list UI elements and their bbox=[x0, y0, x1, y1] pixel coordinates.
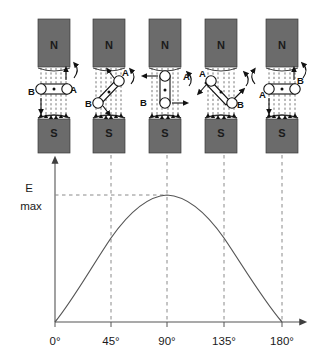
coil-terminal-a-ring bbox=[206, 76, 216, 86]
x-tick-label-45: 45° bbox=[102, 335, 119, 347]
emf-coil-diagram: N S bbox=[0, 0, 330, 362]
y-axis-emax-sublabel: max bbox=[20, 200, 42, 212]
coil-terminal-b-ring bbox=[36, 84, 46, 94]
x-axis-ticks bbox=[55, 322, 282, 327]
emf-curve bbox=[55, 195, 282, 322]
coil-180deg: B A bbox=[259, 75, 304, 100]
coil-0deg: A B bbox=[28, 84, 77, 97]
coil-terminal-b-label: B bbox=[85, 98, 92, 109]
coil-terminal-b-label: B bbox=[28, 86, 35, 97]
coil-terminal-a-ring bbox=[160, 71, 170, 81]
north-pole-label: N bbox=[105, 39, 113, 51]
rotation-arrow bbox=[131, 70, 134, 84]
south-pole-label: S bbox=[217, 127, 224, 139]
coil-axis-dot bbox=[108, 91, 111, 94]
north-pole-face-curve bbox=[205, 68, 237, 71]
x-tick-label-180: 180° bbox=[270, 335, 294, 347]
coil-terminal-a-label: A bbox=[122, 67, 129, 78]
coil-terminal-b-label: B bbox=[140, 97, 147, 108]
coil-terminal-a-label: A bbox=[70, 84, 77, 95]
coil-45deg: A B bbox=[85, 67, 129, 109]
magnet-panel-90deg: N S bbox=[140, 19, 191, 153]
coil-terminal-b-ring bbox=[160, 98, 170, 108]
coil-terminal-b-label: B bbox=[297, 75, 304, 86]
coil-axis-dot bbox=[281, 88, 284, 91]
north-pole-face-curve bbox=[38, 68, 70, 71]
magnet-panel-135deg: N S bbox=[199, 19, 248, 153]
magnet-panel-45deg: N S bbox=[85, 19, 134, 153]
north-pole-label: N bbox=[278, 39, 286, 51]
rotation-arrow-left bbox=[252, 70, 255, 84]
south-pole-label: S bbox=[161, 127, 168, 139]
coil-135deg: A B bbox=[199, 68, 244, 110]
coil-terminal-b-ring bbox=[93, 98, 103, 108]
panel-to-graph-connectors bbox=[55, 155, 282, 322]
coil-terminal-b-label: B bbox=[237, 99, 244, 110]
emf-graph: E max 0° 45° 90° 135° 180° bbox=[20, 182, 303, 347]
north-pole-label: N bbox=[50, 39, 58, 51]
coil-terminal-a-label: A bbox=[199, 68, 206, 79]
magnet-panel-0deg: N S bbox=[28, 19, 77, 153]
coil-axis-dot bbox=[164, 89, 167, 92]
south-pole-label: S bbox=[50, 127, 57, 139]
x-tick-label-90: 90° bbox=[158, 335, 175, 347]
y-axis-emax-label: E bbox=[25, 182, 33, 194]
coil-terminal-b-ring bbox=[227, 98, 237, 108]
x-tick-label-0: 0° bbox=[50, 335, 61, 347]
coil-terminal-a-label: A bbox=[183, 71, 190, 82]
figure-canvas: N S bbox=[0, 0, 330, 362]
rotation-arrow bbox=[74, 64, 77, 78]
x-tick-label-135: 135° bbox=[212, 335, 236, 347]
north-pole-label: N bbox=[161, 39, 169, 51]
magnet-panel-180deg: N S bbox=[252, 19, 306, 153]
south-pole-label: S bbox=[278, 127, 285, 139]
rotation-arrow bbox=[245, 73, 248, 86]
north-pole-face-curve bbox=[266, 68, 298, 71]
coil-terminal-a-label: A bbox=[259, 89, 266, 100]
coil-axis-dot bbox=[220, 91, 223, 94]
coil-axis-dot bbox=[53, 88, 56, 91]
south-pole-label: S bbox=[105, 127, 112, 139]
north-pole-label: N bbox=[217, 39, 225, 51]
